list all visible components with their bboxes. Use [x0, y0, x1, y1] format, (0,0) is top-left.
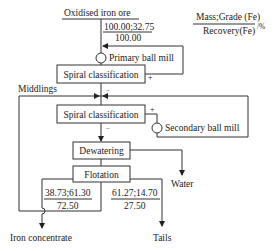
spiral-classification-1-label: Spiral classification	[63, 70, 138, 80]
tails-mass-grade: 61.27;14.70	[112, 188, 158, 198]
feed-label: Oxidised iron ore	[64, 8, 131, 18]
concentrate-recovery: 72.50	[57, 201, 79, 211]
flowsheet-diagram: Oxidised iron ore 100.00;32.75 100.00 Ma…	[0, 0, 279, 251]
middlings-label: Middlings	[18, 84, 57, 94]
spiral1-minus-sign: −	[106, 87, 110, 95]
secondary-ball-mill-icon	[152, 123, 162, 133]
primary-ball-mill-icon	[96, 53, 106, 63]
secondary-ball-mill-label: Secondary ball mill	[165, 123, 240, 133]
primary-ball-mill-label: Primary ball mill	[109, 53, 174, 63]
water-line	[130, 150, 182, 175]
flotation-label: Flotation	[84, 170, 119, 180]
dewatering-label: Dewatering	[79, 146, 124, 156]
spiral2-underflow-line	[145, 114, 157, 123]
legend-unit: /%	[257, 22, 265, 31]
spiral1-plus-sign: +	[148, 73, 153, 82]
legend-denominator: Recovery(Fe)	[203, 26, 255, 37]
spiral2-minus-sign: −	[106, 125, 110, 133]
spiral-classification-2-label: Spiral classification	[63, 110, 138, 120]
iron-concentrate-label: Iron concentrate	[10, 233, 72, 243]
tails-recovery: 27.50	[124, 201, 146, 211]
legend-numerator: Mass;Grade (Fe)	[196, 12, 260, 23]
tails-label: Tails	[153, 233, 172, 243]
concentrate-mass-grade: 38.73;61.30	[45, 188, 91, 198]
feed-mass-grade: 100.00;32.75	[104, 22, 154, 32]
water-label: Water	[171, 179, 194, 189]
feed-recovery: 100.00	[115, 33, 141, 43]
spiral2-plus-sign: +	[150, 105, 155, 114]
